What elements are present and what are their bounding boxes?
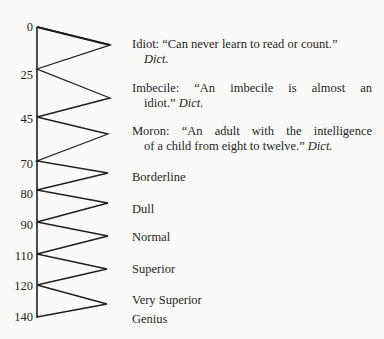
category-imbecile: Imbecile: “An imbecile is almost an idio… <box>132 81 372 111</box>
moron-definition-cont: of a child from eight to twelve.” <box>144 139 305 153</box>
imbecile-source: Dict. <box>179 96 204 110</box>
imbecile-definition-cont: idiot.” <box>144 96 176 110</box>
idiot-source: Dict. <box>132 52 372 67</box>
idiot-definition: Idiot: “Can never learn to read or count… <box>132 37 337 51</box>
category-genius: Genius <box>132 312 372 327</box>
category-idiot: Idiot: “Can never learn to read or count… <box>132 37 372 67</box>
category-superior: Superior <box>132 262 372 277</box>
category-moron: Moron: “An adult with the intelligence o… <box>132 124 372 154</box>
category-normal: Normal <box>132 230 372 245</box>
imbecile-definition: Imbecile: “An imbecile is almost an <box>132 81 372 96</box>
category-borderline: Borderline <box>132 170 372 185</box>
zigzag-line <box>37 27 110 317</box>
category-very-superior: Very Superior <box>132 293 372 308</box>
moron-definition: Moron: “An adult with the intelligence <box>132 124 372 139</box>
moron-source: Dict. <box>308 139 333 153</box>
category-dull: Dull <box>132 202 372 217</box>
